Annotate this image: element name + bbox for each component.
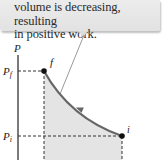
pf-label: Pf — [2, 65, 14, 79]
point-i-label: i — [127, 124, 130, 135]
point-f — [41, 68, 47, 74]
callout-pointer — [78, 31, 88, 37]
pi-label: Pi — [2, 130, 12, 144]
pv-diagram: P Pf Pi f i — [0, 0, 168, 160]
point-f-label: f — [50, 56, 55, 68]
point-i — [119, 133, 125, 139]
y-axis-label: P — [13, 42, 21, 54]
